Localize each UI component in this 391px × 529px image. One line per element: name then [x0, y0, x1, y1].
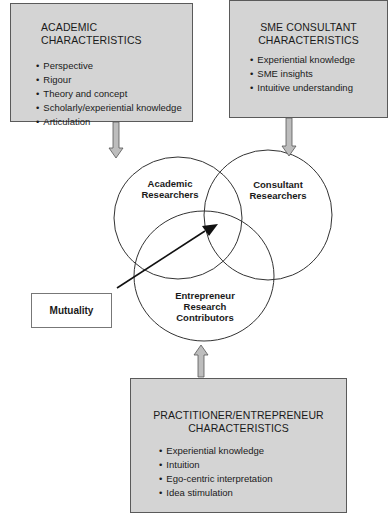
academic-box-title: ACADEMIC CHARACTERISTICS: [11, 21, 192, 47]
consultant-researchers-label: Consultant Researchers: [238, 179, 318, 201]
list-item: Idea stimulation: [159, 486, 346, 500]
mutuality-box: Mutuality: [31, 293, 112, 328]
list-item: Scholarly/experiential knowledge: [36, 101, 192, 115]
list-item: SME insights: [250, 67, 387, 81]
list-item: Intuitive understanding: [250, 81, 387, 95]
label-line: Researchers: [130, 189, 210, 200]
mutuality-arrowhead: [202, 224, 218, 236]
mutuality-arrow-line: [117, 231, 205, 288]
academic-researchers-label: Academic Researchers: [130, 178, 210, 200]
list-item: Rigour: [36, 73, 192, 87]
list-item: Perspective: [36, 59, 192, 73]
practitioner-entrepreneur-characteristics-box: PRACTITIONER/ENTREPRENEUR CHARACTERISTIC…: [130, 378, 347, 513]
list-item: Ego-centric interpretation: [159, 472, 346, 486]
list-item: Experiential knowledge: [250, 53, 387, 67]
list-item: Articulation: [36, 115, 192, 129]
arrow-sme-down: [282, 118, 296, 156]
practitioner-title-line1: PRACTITIONER/ENTREPRENEUR: [131, 409, 346, 422]
label-line: Consultant: [238, 179, 318, 190]
list-item: Theory and concept: [36, 87, 192, 101]
practitioner-characteristics-list: Experiential knowledge Intuition Ego-cen…: [131, 444, 346, 500]
sme-box-title: SME CONSULTANT CHARACTERISTICS: [230, 21, 387, 47]
academic-characteristics-box: ACADEMIC CHARACTERISTICS Perspective Rig…: [10, 3, 193, 122]
entrepreneur-research-contributors-label: Entrepreneur Research Contributors: [160, 290, 250, 323]
mutuality-label: Mutuality: [50, 305, 94, 316]
list-item: Intuition: [159, 458, 346, 472]
practitioner-title-line2: CHARACTERISTICS: [131, 422, 346, 435]
label-line: Entrepreneur: [160, 290, 250, 301]
practitioner-box-title: PRACTITIONER/ENTREPRENEUR CHARACTERISTIC…: [131, 409, 346, 435]
list-item: Experiential knowledge: [159, 444, 346, 458]
sme-title-line1: SME CONSULTANT: [230, 21, 387, 34]
label-line: Researchers: [238, 190, 318, 201]
label-line: Academic: [130, 178, 210, 189]
sme-characteristics-list: Experiential knowledge SME insights Intu…: [230, 53, 387, 95]
sme-consultant-characteristics-box: SME CONSULTANT CHARACTERISTICS Experient…: [229, 0, 388, 118]
arrow-practitioner-up: [194, 345, 208, 377]
sme-title-line2: CHARACTERISTICS: [230, 34, 387, 47]
label-line: Research: [160, 301, 250, 312]
academic-characteristics-list: Perspective Rigour Theory and concept Sc…: [11, 59, 192, 129]
label-line: Contributors: [160, 312, 250, 323]
